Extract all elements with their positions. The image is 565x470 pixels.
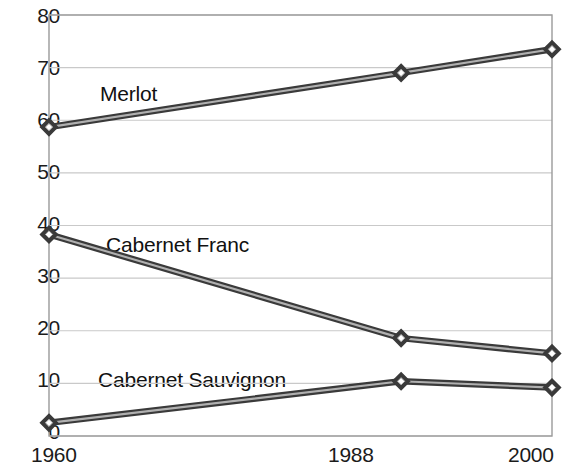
series-line	[49, 381, 552, 423]
line-chart: 80 70 60 50 40 30 20 10 0 1960 1988 2000…	[0, 0, 565, 470]
series-line	[49, 234, 552, 353]
plot-area	[0, 0, 565, 470]
series-line-highlight	[49, 234, 552, 353]
series-line-highlight	[49, 49, 552, 127]
